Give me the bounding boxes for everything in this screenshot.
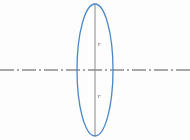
ellipse-radius-diagram: r r: [0, 0, 190, 140]
diagram-canvas: r r: [0, 0, 190, 140]
lower-radius-label: r: [98, 92, 101, 100]
upper-radius-label: r: [98, 40, 101, 48]
